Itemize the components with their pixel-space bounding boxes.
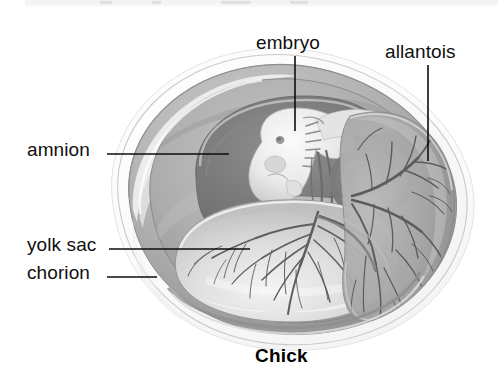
label-chorion: chorion [27, 263, 90, 283]
label-yolk-sac: yolk sac [27, 235, 96, 255]
label-embryo: embryo [256, 33, 320, 53]
label-amnion: amnion [27, 140, 90, 160]
label-allantois: allantois [385, 42, 456, 62]
figure-page: embryo allantois amnion yolk sac chorion… [0, 0, 498, 376]
figure-caption: Chick [255, 345, 308, 367]
